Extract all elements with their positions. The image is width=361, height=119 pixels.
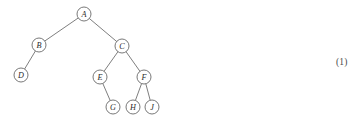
tree-edge-a-c — [89, 19, 116, 42]
tree-figure: ABCDEFGHJ (1) — [0, 0, 361, 119]
node-label-g: G — [110, 103, 116, 112]
node-label-c: C — [119, 42, 125, 51]
equation-number: (1) — [336, 57, 348, 67]
node-group: ABCDEFGHJ — [14, 7, 159, 114]
tree-node-e[interactable]: E — [93, 70, 107, 84]
tree-node-d[interactable]: D — [14, 68, 28, 82]
node-label-b: B — [36, 41, 41, 50]
node-label-d: D — [17, 71, 24, 80]
node-label-j: J — [150, 103, 154, 112]
node-label-e: E — [96, 73, 102, 82]
tree-node-b[interactable]: B — [32, 38, 46, 52]
tree-edge-f-j — [146, 84, 150, 100]
tree-edge-a-b — [45, 18, 78, 41]
node-label-a: A — [80, 10, 87, 19]
node-label-f: F — [140, 73, 147, 82]
node-label-h: H — [129, 103, 137, 112]
tree-node-f[interactable]: F — [137, 70, 151, 84]
tree-node-c[interactable]: C — [115, 39, 129, 53]
tree-edge-f-h — [135, 84, 141, 101]
tree-edge-c-f — [126, 52, 140, 72]
tree-edge-c-e — [104, 52, 118, 72]
edge-group — [25, 18, 151, 101]
tree-node-a[interactable]: A — [77, 7, 91, 21]
tree-edge-b-d — [25, 51, 36, 69]
tree-node-h[interactable]: H — [126, 100, 140, 114]
tree-edge-e-g — [103, 83, 110, 100]
tree-node-j[interactable]: J — [145, 100, 159, 114]
tree-node-g[interactable]: G — [106, 100, 120, 114]
tree-graphic: ABCDEFGHJ — [0, 0, 361, 119]
